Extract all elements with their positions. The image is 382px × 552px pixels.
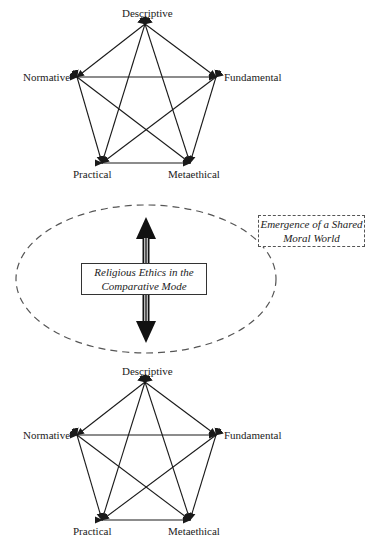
bottom-node-metaethical: Metaethical <box>168 525 220 537</box>
top-node-fundamental: Fundamental <box>224 71 281 83</box>
center-box-line2: Comparative Mode <box>82 279 206 293</box>
top-node-descriptive: Descriptive <box>122 7 173 19</box>
center-box-line1: Religious Ethics in the <box>82 265 206 279</box>
top-node-normative: Normative <box>23 71 70 83</box>
emergence-box-line2: Moral World <box>259 231 364 245</box>
top-node-metaethical: Metaethical <box>168 168 220 180</box>
center-box: Religious Ethics in the Comparative Mode <box>81 263 207 295</box>
top-node-practical: Practical <box>73 168 111 180</box>
emergence-box-line1: Emergence of a Shared <box>259 217 364 231</box>
emergence-box: Emergence of a Shared Moral World <box>258 215 365 247</box>
pentagon-bottom-edges <box>77 382 216 520</box>
bottom-node-normative: Normative <box>23 429 70 441</box>
pentagon-top-edges <box>77 24 216 163</box>
bottom-node-fundamental: Fundamental <box>224 429 281 441</box>
bottom-node-practical: Practical <box>73 525 111 537</box>
bottom-node-descriptive: Descriptive <box>122 365 173 377</box>
